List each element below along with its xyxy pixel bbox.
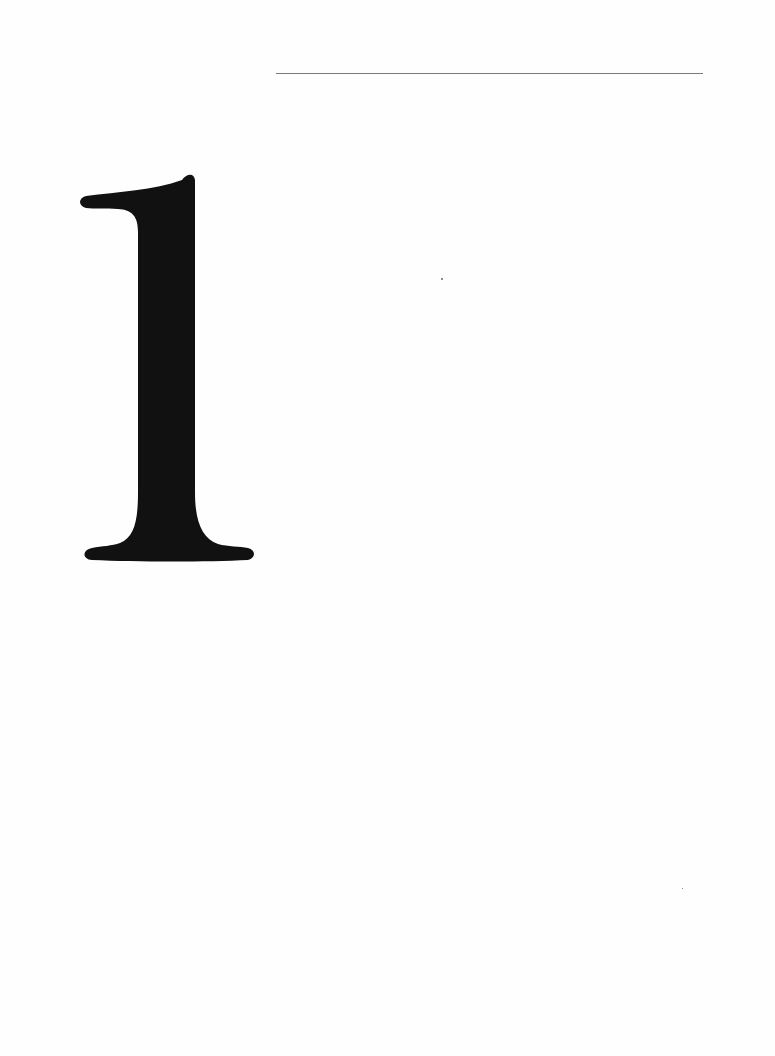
book-page: 1	[0, 0, 775, 1056]
chapter-number: 1	[78, 172, 258, 564]
scan-speck	[682, 888, 683, 889]
chapter-numeral-glyph	[78, 172, 258, 564]
scan-speck	[441, 278, 443, 280]
header-rule	[276, 73, 703, 74]
